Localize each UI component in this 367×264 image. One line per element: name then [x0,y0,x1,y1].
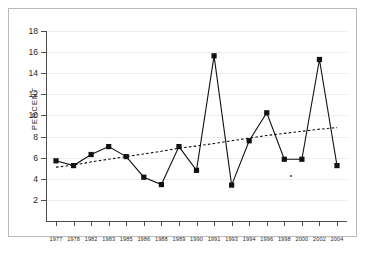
x-tick-label: 1989 [173,236,186,242]
x-tick-label: 1988 [155,236,168,242]
x-tick [319,221,320,226]
data-point-marker [106,144,111,149]
x-tick-label: 1983 [102,236,115,242]
data-point-marker [247,138,252,143]
data-point-marker [264,110,269,115]
x-tick-label: 1993 [225,236,238,242]
y-tick-label: 16 [4,48,38,56]
data-line [56,56,337,185]
x-tick [144,221,145,226]
stray-dot-artifact [290,175,292,177]
data-point-marker [211,53,216,58]
data-point-marker [194,168,199,173]
series-svg [46,31,346,221]
data-point-marker [282,157,287,162]
x-tick [337,221,338,226]
x-tick-label: 1991 [208,236,221,242]
data-point-marker [71,163,76,168]
x-tick [179,221,180,226]
x-tick [232,221,233,226]
data-point-marker [176,144,181,149]
data-point-marker [317,57,322,62]
x-tick-label: 1986 [137,236,150,242]
x-tick [126,221,127,226]
x-tick-label: 1985 [120,236,133,242]
plot-area [46,31,346,213]
x-tick [161,221,162,226]
y-tick-label: 4 [4,175,38,183]
x-tick [267,221,268,226]
data-point-marker [299,157,304,162]
x-tick-label: 1990 [190,236,203,242]
x-tick [249,221,250,226]
data-point-marker [229,183,234,188]
data-point-marker [141,175,146,180]
y-tick-label: 6 [4,154,38,162]
data-point-marker [124,154,129,159]
x-tick-label: 1994 [243,236,256,242]
x-tick [91,221,92,226]
y-tick-label: 18 [4,27,38,35]
x-tick-label: 2000 [295,236,308,242]
x-tick [74,221,75,226]
y-tick-label: 2 [4,196,38,204]
data-point-marker [89,152,94,157]
x-tick-label: 2002 [313,236,326,242]
data-point-marker [334,163,339,168]
data-point-marker [159,182,164,187]
x-tick-label: 1978 [67,236,80,242]
x-tick-label: 1996 [260,236,273,242]
x-tick [56,221,57,226]
x-tick [214,221,215,226]
x-tick-label: 2004 [331,236,344,242]
trend-line [56,128,337,168]
x-tick-label: 1977 [50,236,63,242]
y-axis-title: PERCENT [30,69,39,149]
x-tick [197,221,198,226]
x-tick-label: 1998 [278,236,291,242]
data-point-marker [53,158,58,163]
x-tick [109,221,110,226]
x-tick [302,221,303,226]
x-tick-label: 1982 [85,236,98,242]
chart-figure: 24681012141618 1977197819821983198519861… [0,0,367,264]
x-tick [284,221,285,226]
